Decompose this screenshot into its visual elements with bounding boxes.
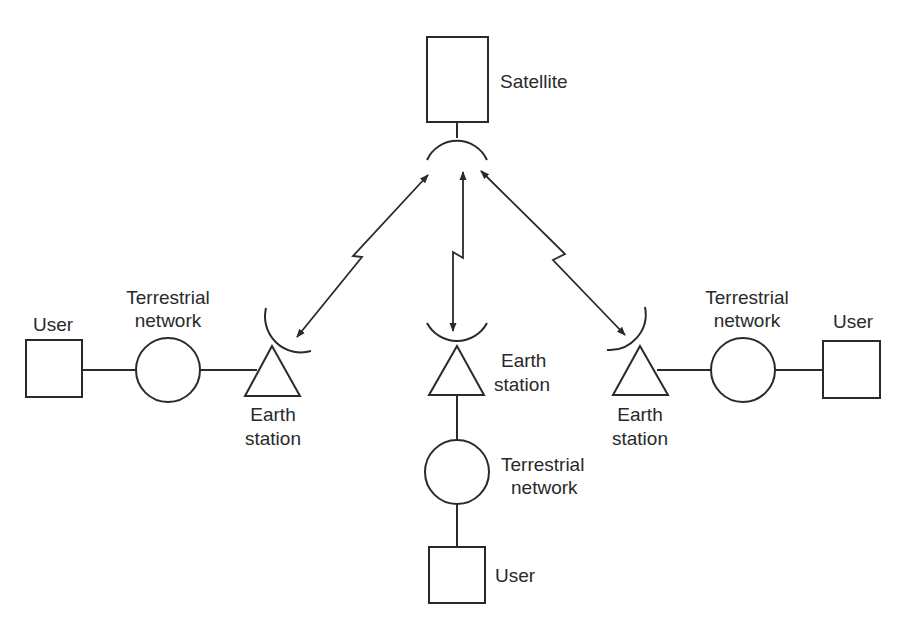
radio-link-center (453, 172, 463, 331)
radio-link-left (297, 175, 428, 337)
center-earth-station-dish-icon (427, 323, 487, 341)
satellite-dish-icon (427, 141, 487, 160)
right-earth-station-dish-icon (607, 307, 646, 350)
center-earth-station-label-line2: station (494, 374, 550, 395)
satellite-label: Satellite (500, 71, 568, 92)
left-earth-station-label-line1: Earth (250, 404, 295, 425)
left-earth-station-label-line2: station (245, 428, 301, 449)
center-branch: Earth station Terrestrial network User (425, 323, 584, 603)
left-network-label-line2: network (135, 310, 202, 331)
right-earth-station-label-line2: station (612, 428, 668, 449)
center-earth-station-triangle (429, 346, 484, 395)
right-user-box (823, 341, 880, 398)
radio-links (297, 171, 625, 337)
center-network-label-line2: network (511, 477, 578, 498)
left-branch: User Terrestrial network Earth station (26, 287, 311, 449)
satellite: Satellite (427, 37, 568, 160)
center-earth-station-label-line1: Earth (501, 350, 546, 371)
radio-link-right (481, 171, 625, 335)
center-user-label: User (495, 565, 536, 586)
right-branch: Earth station Terrestrial network User (607, 287, 880, 449)
right-user-label: User (833, 311, 874, 332)
center-network-label-line1: Terrestrial (501, 454, 584, 475)
right-network-label-line1: Terrestrial (705, 287, 788, 308)
left-network-label-line1: Terrestrial (126, 287, 209, 308)
satellite-body (427, 37, 488, 122)
center-user-box (429, 547, 485, 603)
left-terrestrial-network (136, 338, 200, 402)
satellite-network-diagram: Satellite User Terrestrial network Earth… (0, 0, 906, 630)
right-network-label-line2: network (714, 310, 781, 331)
right-earth-station-label-line1: Earth (617, 404, 662, 425)
center-terrestrial-network (425, 440, 489, 504)
right-terrestrial-network (711, 338, 775, 402)
left-user-label: User (33, 314, 74, 335)
left-user-box (26, 340, 82, 397)
